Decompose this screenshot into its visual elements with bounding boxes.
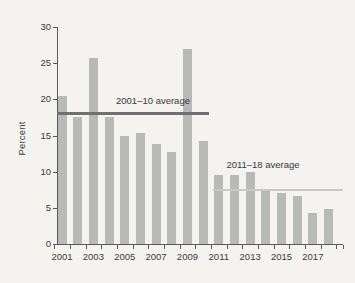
bar-2001 [58,96,67,244]
bar-2008 [167,152,176,244]
bar-2005 [120,136,129,245]
y-tick-label: 25 [31,58,51,68]
x-tick-label: 2003 [78,252,108,262]
y-tick [53,99,57,100]
x-tick-label: 2009 [172,252,202,262]
x-tick [195,245,196,249]
x-tick [101,245,102,249]
x-tick [211,245,212,249]
avg-2001-10-line [57,112,209,115]
x-tick [117,245,118,249]
x-tick-label: 2013 [235,252,265,262]
x-tick-label: 2005 [110,252,140,262]
x-tick-label: 2001 [47,252,77,262]
y-tick [53,172,57,173]
x-tick [180,245,181,249]
x-axis-line [57,244,343,245]
bar-2016 [293,196,302,244]
x-tick [289,245,290,249]
x-tick-label: 2007 [141,252,171,262]
bar-2006 [136,133,145,244]
x-tick [336,245,337,249]
bar-2015 [277,193,286,244]
x-tick [343,245,344,249]
x-tick [54,245,55,249]
bar-2009 [183,49,192,244]
x-tick [321,245,322,249]
bar-chart-figure: Percent 05101520253020012003200520072009… [0,0,355,283]
y-tick [53,136,57,137]
bar-2010 [199,141,208,244]
x-tick [164,245,165,249]
x-tick-label: 2015 [267,252,297,262]
x-tick [70,245,71,249]
bar-2018 [324,209,333,244]
x-tick [227,245,228,249]
avg-2011-18-label: 2011–18 average [226,159,299,170]
bar-2013 [246,172,255,244]
bar-2017 [308,213,317,244]
x-tick [274,245,275,249]
x-tick [242,245,243,249]
x-tick [305,245,306,249]
y-tick-label: 20 [31,94,51,104]
y-tick-label: 15 [31,131,51,141]
bar-2004 [105,117,114,244]
x-tick [86,245,87,249]
y-tick [53,27,57,28]
bar-2011 [214,175,223,244]
y-tick-label: 5 [31,203,51,213]
y-axis-title: Percent [16,109,27,169]
bar-2002 [73,117,82,244]
bar-2007 [152,144,161,244]
bar-2003 [89,58,98,244]
x-tick [133,245,134,249]
bar-2012 [230,175,239,244]
y-tick-label: 10 [31,167,51,177]
bar-2014 [261,190,270,244]
x-tick-label: 2011 [204,252,234,262]
x-tick [148,245,149,249]
y-tick-label: 0 [31,239,51,249]
avg-2001-10-label: 2001–10 average [116,95,190,106]
y-tick-label: 30 [31,22,51,32]
y-tick [53,63,57,64]
y-tick [53,208,57,209]
x-tick [258,245,259,249]
x-tick-label: 2017 [298,252,328,262]
avg-2011-18-line [213,189,343,192]
